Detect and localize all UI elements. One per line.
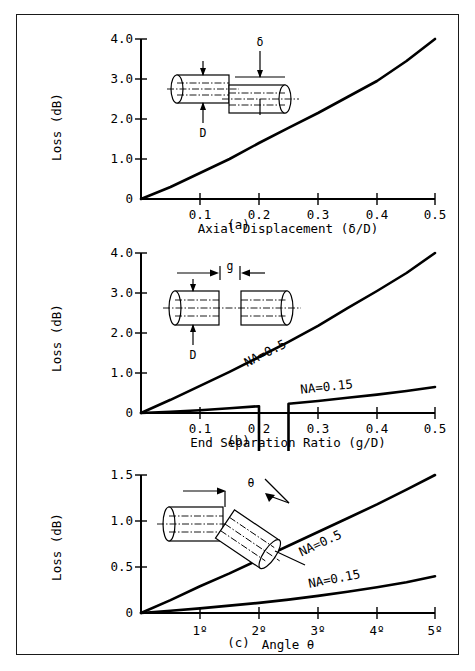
panel-caption-b: (b) xyxy=(17,433,460,448)
chart-panel-b: Loss (dB) 4.0 3.0 2.0 1.0 0 xyxy=(17,233,460,451)
curve-label-na-015: NA=0.15 xyxy=(307,566,362,591)
panel-caption-c: (c) xyxy=(17,635,460,650)
y-axis-label: Loss (dB) xyxy=(49,93,64,161)
data-curve-na-05 xyxy=(141,475,435,613)
curve-label-na-05: NA=0.5 xyxy=(241,336,288,370)
data-curve-na-05 xyxy=(141,253,435,413)
y-tick-label: 0 xyxy=(125,605,133,620)
y-tick-label: 1.0 xyxy=(110,513,133,528)
y-tick-label: 0.5 xyxy=(110,559,133,574)
reference-arrow xyxy=(183,488,226,508)
axial-displacement-chart: Loss (dB) 4.0 3.0 2.0 1.0 0 xyxy=(17,19,460,235)
y-tick-label: 3.0 xyxy=(110,285,133,300)
y-tick-label: 1.5 xyxy=(110,467,133,482)
y-tick-label: 0 xyxy=(125,405,133,420)
end-separation-chart: Loss (dB) 4.0 3.0 2.0 1.0 0 xyxy=(17,233,460,451)
curve-label-na-015: NA=0.15 xyxy=(300,376,354,396)
chart-panel-c: Loss (dB) 1.5 1.0 0.5 0 1º 2º xyxy=(17,455,460,655)
y-tick-label: 3.0 xyxy=(110,71,133,86)
y-tick-label: 2.0 xyxy=(110,111,133,126)
y-tick-label: 1.0 xyxy=(110,365,133,380)
tilted-fiber xyxy=(215,510,289,575)
inset-label-g: g xyxy=(227,259,234,273)
y-axis-label: Loss (dB) xyxy=(49,513,64,581)
chart-panel-a: Loss (dB) 4.0 3.0 2.0 1.0 0 xyxy=(17,19,460,235)
panel-caption-a: (a) xyxy=(17,217,460,232)
y-tick-label: 2.0 xyxy=(110,325,133,340)
y-axis-label: Loss (dB) xyxy=(49,304,64,372)
angular-misalignment-diagram: θ xyxy=(157,476,305,575)
y-tick-label: 1.0 xyxy=(110,151,133,166)
dimension-arrow-g xyxy=(177,266,265,280)
axis-lines xyxy=(141,39,435,199)
inset-label-D: D xyxy=(190,348,197,362)
axis-lines xyxy=(141,253,435,413)
inset-label-D: D xyxy=(200,126,207,140)
y-tick-label: 0 xyxy=(125,191,133,206)
data-curve xyxy=(141,39,435,199)
y-tick-label: 4.0 xyxy=(110,245,133,260)
inset-label-delta: δ xyxy=(257,35,264,49)
figure-border: Loss (dB) 4.0 3.0 2.0 1.0 0 xyxy=(16,14,459,655)
angular-misalignment-chart: Loss (dB) 1.5 1.0 0.5 0 1º 2º xyxy=(17,455,460,655)
axial-displacement-diagram: D δ xyxy=(167,35,299,140)
y-tick-label: 4.0 xyxy=(110,31,133,46)
inset-label-theta: θ xyxy=(248,476,255,490)
